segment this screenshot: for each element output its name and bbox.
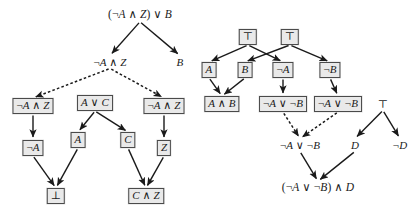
node-not-a-or-not-b: ¬A ∨ ¬B: [314, 96, 362, 112]
node-b: B: [175, 56, 186, 69]
node-not-a: ¬A: [22, 140, 43, 156]
edge-not-a-and-z-or-b-to-b: [141, 23, 178, 54]
node-a: A: [71, 132, 86, 148]
node-top: ⊤: [239, 29, 257, 45]
node-a-and-b: A ∧ B: [204, 96, 239, 112]
node-not-a-and-z: ¬A ∧ Z: [12, 98, 53, 114]
edge-not-a-or-not-b-to-not-a-or-not-b: [284, 113, 299, 136]
node-a-or-c: A ∨ C: [77, 95, 113, 111]
node-d: D: [349, 139, 361, 152]
edge-a-to-bottom: [57, 149, 77, 185]
node-c: C: [120, 132, 135, 148]
edge-a-or-c-to-c: [96, 112, 125, 131]
node-not-a-or-not-b-and-d: (¬A ∨ ¬B) ∧ D: [280, 181, 357, 195]
node-not-a-and-z: ¬A ∧ Z: [143, 98, 184, 114]
node-not-a-and-z-or-b: (¬A ∧ Z) ∨ B: [106, 8, 174, 22]
edge-c-to-c-and-z: [129, 149, 145, 185]
node-not-a-or-not-b: ¬A ∨ ¬B: [259, 96, 307, 112]
edge-a-to-a-and-b: [210, 79, 220, 93]
node-top: ⊤: [281, 29, 299, 45]
node-z: Z: [157, 140, 171, 156]
edge-not-a-or-not-b-to-not-a-or-not-b-and-d: [301, 153, 317, 179]
edge-z-to-c-and-z: [148, 157, 164, 185]
node-b: B: [238, 62, 253, 78]
edge-a-or-c-to-a: [80, 112, 94, 130]
edge-not-a-to-bottom: [34, 157, 54, 185]
edge-top-to-d: [357, 112, 382, 137]
edge-not-b-to-not-a-or-not-b: [331, 79, 337, 93]
edge-top-to-not-b: [291, 46, 327, 61]
diagram-canvas: (¬A ∧ Z) ∨ B¬A ∧ ZB¬A ∧ ZA ∨ C¬A ∧ Z¬AAC…: [0, 0, 417, 223]
node-not-a-and-z: ¬A ∧ Z: [91, 56, 128, 69]
edge-not-a-and-z-to-not-a-and-z: [36, 69, 109, 97]
edge-not-a-and-z-to-not-a-and-z: [111, 69, 161, 96]
node-not-b: ¬B: [319, 62, 340, 78]
node-bottom: ⊥: [47, 188, 65, 204]
node-not-a-or-not-b: ¬A ∨ ¬B: [278, 139, 322, 152]
edge-b-to-a-and-b: [224, 79, 243, 94]
edge-not-a-and-z-or-b-to-not-a-and-z: [112, 23, 139, 53]
node-not-d: ¬D: [391, 139, 409, 152]
edge-not-a-or-not-b-to-not-a-or-not-b: [303, 113, 337, 137]
node-c-and-z: C ∧ Z: [128, 188, 164, 204]
node-top: ⊤: [376, 98, 390, 111]
node-a: A: [202, 62, 217, 78]
edge-d-to-not-a-or-not-b-and-d: [320, 152, 354, 179]
node-not-a: ¬A: [272, 62, 293, 78]
edge-top-to-a: [212, 46, 247, 61]
edge-top-to-not-d: [384, 112, 399, 136]
